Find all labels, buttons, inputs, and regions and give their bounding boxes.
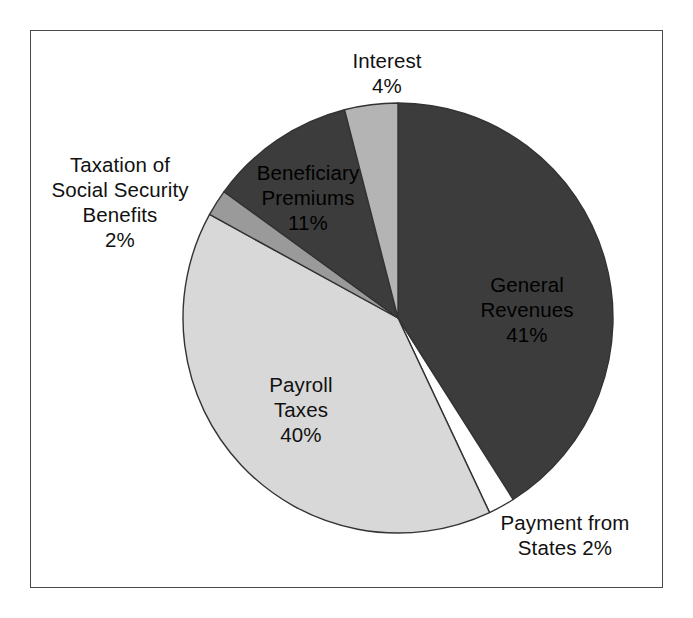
label-line: Interest [302,48,472,73]
label-value: 40% [222,422,380,447]
label-line: Beneficiary [222,160,394,185]
label-line: General [452,272,602,297]
slice-label-payment-from-states: Payment from States 2% [470,510,660,560]
slice-label-taxation-of-social-security-benefits: Taxation of Social Security Benefits 2% [20,152,220,252]
label-line: Revenues [452,297,602,322]
label-line: Social Security [20,177,220,202]
label-value: 2% [20,227,220,252]
label-line: Taxation of [20,152,220,177]
label-line: Taxes [222,397,380,422]
label-value: 11% [222,210,394,235]
label-value: States 2% [470,535,660,560]
label-line: Payment from [470,510,660,535]
label-line: Premiums [222,185,394,210]
slice-label-general-revenues: General Revenues 41% [452,272,602,347]
label-line: Payroll [222,372,380,397]
pie-chart-figure: General Revenues 41% Beneficiary Premium… [0,0,693,618]
label-line: Benefits [20,202,220,227]
label-value: 41% [452,322,602,347]
slice-label-interest: Interest 4% [302,48,472,98]
label-value: 4% [302,73,472,98]
slice-label-beneficiary-premiums: Beneficiary Premiums 11% [222,160,394,235]
slice-label-payroll-taxes: Payroll Taxes 40% [222,372,380,447]
